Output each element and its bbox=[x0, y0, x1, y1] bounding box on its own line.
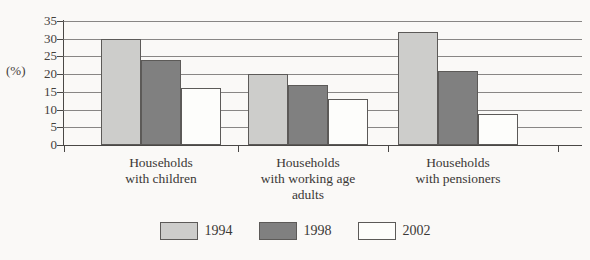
y-tick-label-wrap-10: 10 bbox=[0, 103, 57, 116]
bar-chart: (%) 35302520151050 Householdswith childr… bbox=[0, 0, 590, 260]
bar-2002-group1 bbox=[181, 88, 221, 145]
legend-label-1998: 1998 bbox=[304, 223, 332, 239]
legend-label-2002: 2002 bbox=[403, 223, 431, 239]
y-tick-label-wrap-25: 25 bbox=[0, 49, 57, 62]
y-tick-label-wrap-35: 35 bbox=[0, 14, 57, 27]
y-tick-label-35: 35 bbox=[5, 14, 57, 27]
bar-2002-group3 bbox=[478, 114, 518, 145]
y-tick-label-wrap-20: 20 bbox=[0, 67, 57, 80]
y-tick-label-30: 30 bbox=[5, 32, 57, 45]
legend-swatch-1998 bbox=[259, 222, 297, 240]
bar-1998-group1 bbox=[141, 60, 181, 145]
gridline-0 bbox=[63, 145, 582, 146]
x-tick-2 bbox=[238, 146, 239, 152]
category-label-3-line-1: Households bbox=[368, 155, 548, 171]
y-tick-label-wrap-15: 15 bbox=[0, 85, 57, 98]
y-tick-label-wrap-0: 0 bbox=[0, 138, 57, 151]
x-tick-1 bbox=[64, 146, 65, 152]
y-tick-label-25: 25 bbox=[5, 49, 57, 62]
x-tick-3 bbox=[388, 146, 389, 152]
category-label-3-line-2: with pensioners bbox=[368, 171, 548, 187]
bar-1994-group1 bbox=[101, 39, 141, 145]
y-tick-label-5: 5 bbox=[5, 120, 57, 133]
y-tick-label-15: 15 bbox=[5, 85, 57, 98]
y-tick-label-10: 10 bbox=[5, 103, 57, 116]
y-tick-label-20: 20 bbox=[5, 67, 57, 80]
legend: 199419982002 bbox=[0, 222, 590, 240]
chart-title bbox=[0, 0, 590, 2]
category-label-2-line-3: adults bbox=[218, 187, 398, 203]
bar-1998-group2 bbox=[288, 85, 328, 145]
bar-1998-group3 bbox=[438, 71, 478, 145]
bar-2002-group2 bbox=[328, 99, 368, 145]
category-label-3: Householdswith pensioners bbox=[368, 155, 548, 187]
legend-item-1998[interactable]: 1998 bbox=[259, 222, 332, 240]
y-tick-label-0: 0 bbox=[5, 138, 57, 151]
legend-item-1994[interactable]: 1994 bbox=[160, 222, 233, 240]
plot-area bbox=[63, 21, 582, 145]
legend-label-1994: 1994 bbox=[205, 223, 233, 239]
bar-1994-group3 bbox=[398, 32, 438, 145]
y-tick-label-wrap-5: 5 bbox=[0, 120, 57, 133]
x-tick-4 bbox=[558, 146, 559, 152]
y-tick-label-wrap-30: 30 bbox=[0, 32, 57, 45]
legend-item-2002[interactable]: 2002 bbox=[358, 222, 431, 240]
legend-swatch-1994 bbox=[160, 222, 198, 240]
legend-swatch-2002 bbox=[358, 222, 396, 240]
bar-1994-group2 bbox=[248, 74, 288, 145]
gridline-35 bbox=[63, 21, 582, 22]
